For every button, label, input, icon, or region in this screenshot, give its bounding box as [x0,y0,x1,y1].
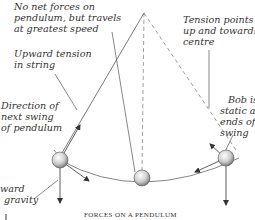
label-downward-gravity: ward gravity [0,183,38,205]
label-direction-next-swing: Direction of next swing of pendulum [1,100,62,133]
label-upward-tension: Upward tension in string [14,48,92,70]
right-bob [218,150,234,166]
label-no-net-forces: No net forces on pendulum, but travels a… [14,1,121,34]
centre-bob [134,170,150,186]
label-bob-static: Bob is static at ends of swing [220,94,255,138]
diagram-caption: FORCES ON A PENDULUM [84,211,177,219]
left-bob [52,152,68,168]
label-tension-points: Tension points up and towards centre [183,14,255,47]
pendulum-diagram: No net forces on pendulum, but travels a… [0,0,255,220]
